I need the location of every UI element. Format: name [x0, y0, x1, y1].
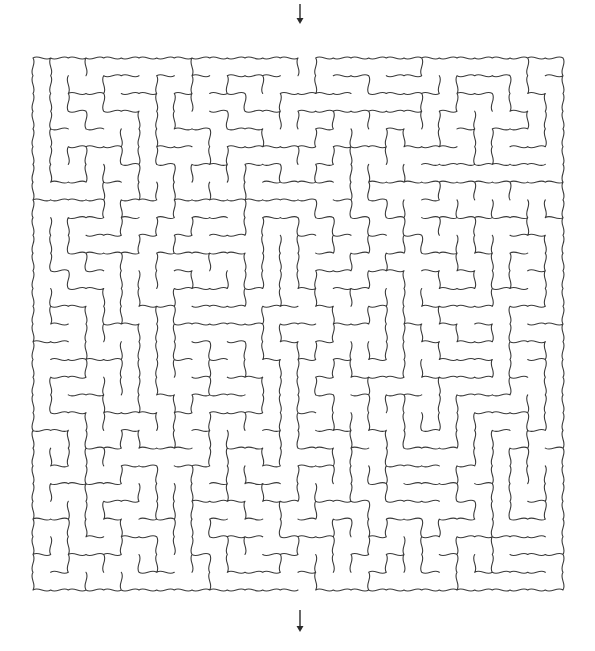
exit-arrow-icon	[297, 610, 304, 632]
maze	[0, 0, 595, 651]
maze-walls	[32, 57, 564, 591]
maze-wall-path	[32, 57, 564, 591]
entry-arrow-icon	[297, 4, 304, 24]
